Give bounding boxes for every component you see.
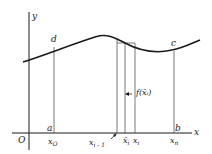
riemann-sum-diagram: y x O d c a b xO xi - 1 x̄i xi xn f(x̄ᵢ) [0,0,212,154]
f-annotation-arrowhead-icon [125,92,129,96]
x0-sub: O [53,140,58,147]
x-bar-i-base: x̄ [123,136,128,145]
y-axis-label: y [32,12,37,21]
point-c-label: c [171,39,176,48]
x-n-label: xn [170,137,178,145]
x-bar-i-sub: i [128,139,130,146]
x-bar-i-label: x̄i [123,137,129,145]
x-i-base: x [133,136,138,145]
x-i-minus-1-label: xi - 1 [89,139,105,147]
x-axis-label: x [194,128,199,137]
x0-base: x [48,137,53,146]
x-i-minus-1-base: x [89,138,94,147]
x-n-sub: n [175,139,179,146]
point-d-label: d [51,35,57,44]
point-b-label: b [175,124,181,133]
origin-label: O [18,136,25,145]
x0-label: xO [48,138,57,146]
x-i-label: xi [133,137,139,145]
f-of-x-bar-i-label: f(x̄ᵢ) [136,89,151,97]
x-n-base: x [170,136,175,145]
x-i-minus-1-sub: i - 1 [94,141,106,148]
point-a-label: a [47,124,52,133]
x-i-sub: i [138,139,140,146]
